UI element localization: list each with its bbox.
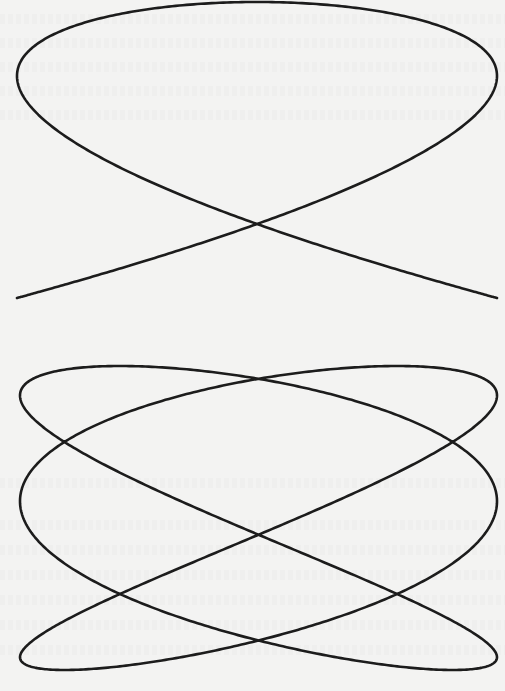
lissajous-curve (17, 2, 497, 298)
lissajous-figure-bottom (16, 362, 501, 674)
lissajous-curve (20, 366, 497, 670)
lissajous-figure-top (13, 0, 501, 302)
scanned-page (0, 0, 505, 691)
